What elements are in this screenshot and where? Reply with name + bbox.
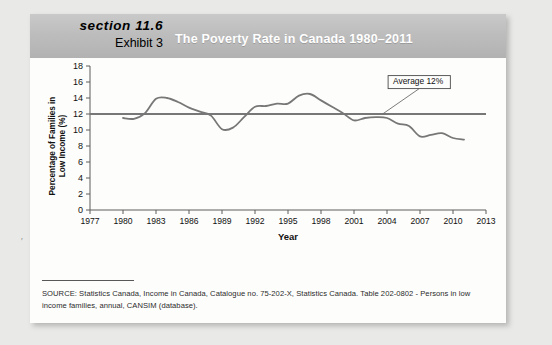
exhibit-title: The Poverty Rate in Canada 1980–2011 xyxy=(175,32,413,46)
x-axis-tick-label: 1977 xyxy=(80,216,99,226)
x-axis-tick-label: 2007 xyxy=(410,216,429,226)
y-axis-tick-label: 10 xyxy=(73,125,83,135)
source-divider xyxy=(42,280,134,281)
exhibit-page: section 11.6 Exhibit 3 The Poverty Rate … xyxy=(0,0,552,345)
x-axis-tick-label: 1995 xyxy=(278,216,297,226)
x-axis-tick-group: 1977198019831986198919921995199820012004… xyxy=(80,210,495,226)
x-axis-tick-label: 1983 xyxy=(146,216,165,226)
x-axis-title: Year xyxy=(278,231,298,242)
y-axis-tick-label: 6 xyxy=(78,157,83,167)
x-axis-tick-label: 2004 xyxy=(377,216,396,226)
x-axis-tick-label: 1998 xyxy=(311,216,330,226)
y-axis-tick-label: 8 xyxy=(78,141,83,151)
x-axis-tick-label: 1989 xyxy=(212,216,231,226)
exhibit-number-label: Exhibit 3 xyxy=(38,35,163,52)
poverty-rate-series-line xyxy=(123,94,464,140)
y-axis-tick-label: 0 xyxy=(78,205,83,215)
y-axis-tick-group: 024681012141618 xyxy=(73,61,90,215)
exhibit-card: section 11.6 Exhibit 3 The Poverty Rate … xyxy=(30,14,506,323)
scan-artifact-mark: ′ xyxy=(21,236,23,246)
exhibit-header-band: section 11.6 Exhibit 3 The Poverty Rate … xyxy=(30,14,506,58)
x-axis-tick-label: 2013 xyxy=(476,216,495,226)
y-axis-tick-label: 14 xyxy=(73,93,83,103)
y-axis-title: Percentage of Families in Low Income (%) xyxy=(48,71,68,221)
annotation-leader-line xyxy=(383,89,420,114)
x-axis-tick-label: 1986 xyxy=(179,216,198,226)
chart-container: Percentage of Families in Low Income (%)… xyxy=(30,58,506,273)
y-axis-tick-label: 12 xyxy=(73,109,83,119)
section-heading-block: section 11.6 Exhibit 3 xyxy=(38,17,163,52)
x-axis-tick-label: 2010 xyxy=(443,216,462,226)
x-axis-tick-label: 2001 xyxy=(344,216,363,226)
x-axis-tick-label: 1980 xyxy=(113,216,132,226)
y-axis-tick-label: 16 xyxy=(73,77,83,87)
poverty-rate-line-chart: 024681012141618 197719801983198619891992… xyxy=(30,58,506,273)
annotation-group: Average 12% xyxy=(383,76,451,114)
annotation-label: Average 12% xyxy=(393,76,444,86)
x-axis-tick-label: 1992 xyxy=(245,216,264,226)
y-axis-tick-label: 4 xyxy=(78,173,83,183)
source-note: SOURCE: Statistics Canada, Income in Can… xyxy=(42,288,494,312)
section-number-label: section 11.6 xyxy=(38,17,163,35)
y-axis-tick-label: 2 xyxy=(78,189,83,199)
y-axis-tick-label: 18 xyxy=(73,61,83,71)
